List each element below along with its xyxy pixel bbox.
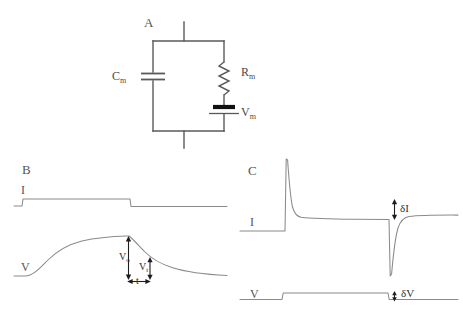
delta-v-label: δV: [401, 288, 414, 299]
panel-c-voltage-trace: [240, 293, 458, 300]
delta-i-arrowhead-top: [392, 199, 397, 204]
panel-c-traces: [0, 0, 463, 316]
panel-c-current-trace: [240, 159, 458, 276]
delta-v-arrowhead-top: [392, 291, 397, 295]
figure-root: A Cm Rm Vm B I V: [0, 0, 463, 316]
delta-i-label: δI: [400, 203, 409, 214]
delta-i-arrowhead-bottom: [392, 215, 397, 220]
